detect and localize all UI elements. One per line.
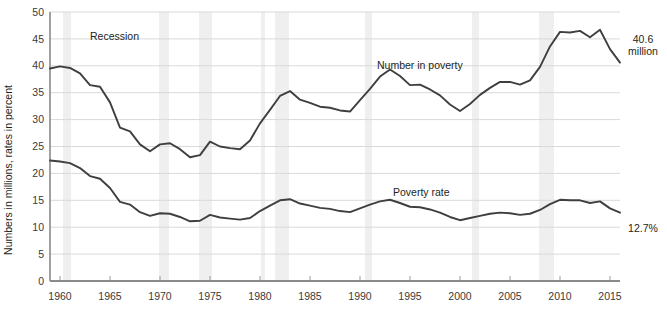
series-line-number-in-poverty	[50, 30, 620, 158]
y-tick-label-10: 10	[32, 221, 44, 233]
series-line-poverty-rate	[50, 160, 620, 221]
y-tick-label-25: 25	[32, 140, 44, 152]
end-label-number-in-poverty-value: 40.6	[633, 33, 654, 45]
end-label-number-in-poverty-unit: million	[628, 45, 658, 57]
annotation-number-in-poverty: Number in poverty	[377, 59, 464, 71]
x-axis-tick-labels: 1960196519701975198019851990199520002005…	[48, 290, 622, 302]
end-label-poverty-rate: 12.7%	[628, 222, 658, 234]
x-tick-label-2010: 2010	[548, 290, 572, 302]
x-tick-label-1985: 1985	[298, 290, 322, 302]
y-tick-label-0: 0	[38, 275, 44, 287]
x-tick-label-1990: 1990	[348, 290, 372, 302]
y-tick-label-40: 40	[32, 59, 44, 71]
x-tick-label-1975: 1975	[198, 290, 222, 302]
x-tick-label-2005: 2005	[498, 290, 522, 302]
y-tick-label-35: 35	[32, 86, 44, 98]
annotation-poverty-rate: Poverty rate	[393, 186, 450, 198]
x-tick-label-1970: 1970	[148, 290, 172, 302]
gridlines	[50, 12, 620, 254]
x-tick-label-1960: 1960	[48, 290, 72, 302]
y-axis-tick-labels: 05101520253035404550	[32, 6, 44, 287]
y-tick-label-15: 15	[32, 194, 44, 206]
y-axis-title: Numbers in millions, rates in percent	[2, 85, 14, 255]
y-tick-label-45: 45	[32, 33, 44, 45]
annotation-recession: Recession	[90, 30, 139, 42]
y-tick-label-50: 50	[32, 6, 44, 18]
x-tick-label-1980: 1980	[248, 290, 272, 302]
y-tick-label-20: 20	[32, 167, 44, 179]
x-tick-label-1995: 1995	[398, 290, 422, 302]
chart-canvas: 05101520253035404550 1960196519701975198…	[0, 0, 667, 313]
poverty-chart: 05101520253035404550 1960196519701975198…	[0, 0, 667, 313]
y-tick-label-5: 5	[38, 248, 44, 260]
y-tick-label-30: 30	[32, 113, 44, 125]
x-tick-label-1965: 1965	[98, 290, 122, 302]
x-tick-label-2015: 2015	[598, 290, 622, 302]
x-tick-label-2000: 2000	[448, 290, 472, 302]
